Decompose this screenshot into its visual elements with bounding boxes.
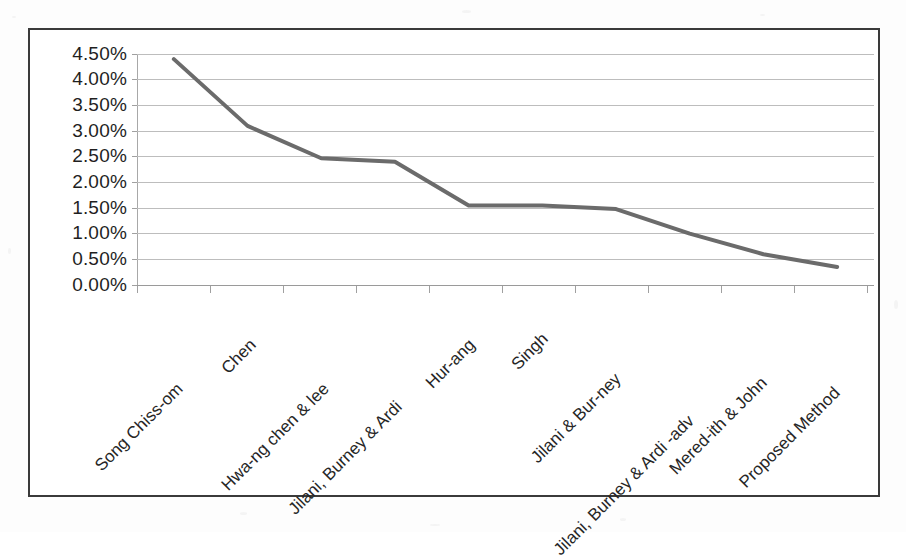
category-tick [794, 286, 795, 293]
y-tick-label: 3.50% [41, 95, 127, 114]
y-tick-label: 4.50% [41, 44, 127, 63]
y-tick-label: 4.00% [41, 69, 127, 88]
category-label: Jilani & Bur-ney [528, 370, 624, 466]
y-tick-label: 2.50% [41, 146, 127, 165]
category-label: Singh [508, 330, 551, 373]
value-axis-labels: 4.50% 4.00% 3.50% 3.00% 2.50% 2.00% 1.50… [30, 30, 127, 495]
category-label: Hur-ang [423, 336, 478, 391]
category-tick [356, 286, 357, 293]
y-tick-label: 2.00% [41, 172, 127, 191]
y-tick-label: 1.00% [41, 223, 127, 242]
series-line-chart [137, 54, 874, 285]
category-tick [575, 286, 576, 293]
category-axis-line [137, 285, 874, 286]
y-tick-label: 1.50% [41, 198, 127, 217]
category-tick [137, 286, 138, 293]
y-tick-label: 3.00% [41, 121, 127, 140]
category-tick [210, 286, 211, 293]
series-path-error-rate [174, 59, 837, 267]
category-label: Chen [218, 336, 259, 377]
category-tick [867, 286, 868, 293]
category-axis-labels: Song Chiss-om Chen Hwa-ng chen & lee Jil… [137, 294, 874, 494]
category-tick [502, 286, 503, 293]
category-tick [721, 286, 722, 293]
category-tick [283, 286, 284, 293]
category-tick [648, 286, 649, 293]
y-tick-label: 0.00% [41, 275, 127, 294]
chart-frame: 4.50% 4.00% 3.50% 3.00% 2.50% 2.00% 1.50… [28, 28, 880, 497]
plot-area [137, 54, 874, 285]
y-tick-label: 0.50% [41, 249, 127, 268]
category-tick [429, 286, 430, 293]
